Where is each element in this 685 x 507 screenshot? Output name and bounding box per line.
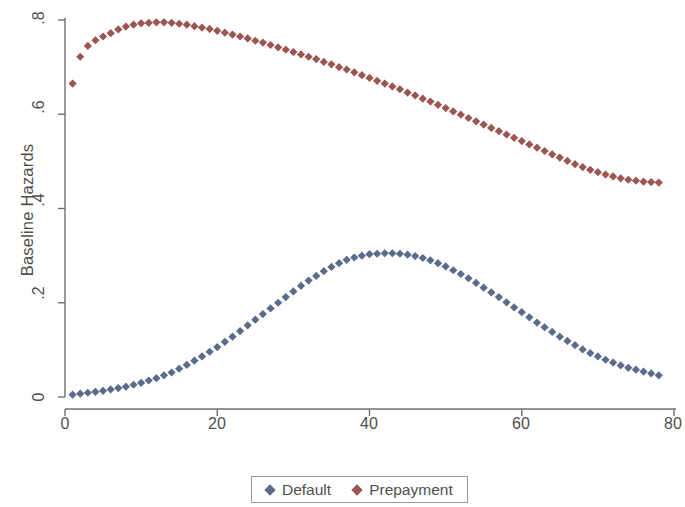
series-default-markers (69, 249, 663, 399)
legend-label-default: Default (282, 481, 331, 499)
chart-figure: Baseline Hazards 0 .2 .4 .6 .8 0 20 40 6… (0, 0, 685, 507)
chart-legend: Default Prepayment (251, 476, 468, 503)
legend-entry-default: Default (266, 481, 331, 499)
legend-entry-prepayment: Prepayment (353, 481, 453, 499)
series-prepayment-markers (69, 18, 663, 186)
plot-area (0, 0, 685, 507)
x-axis-ticks (65, 409, 674, 416)
legend-marker-prepayment-diamond-icon (351, 484, 362, 495)
legend-label-prepayment: Prepayment (369, 481, 453, 499)
y-axis-ticks (58, 20, 65, 397)
legend-marker-default-diamond-icon (264, 484, 275, 495)
